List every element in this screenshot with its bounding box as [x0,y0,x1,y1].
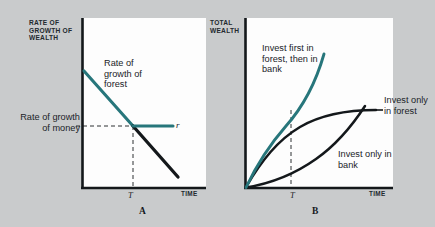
panel-b-only-forest-label: Invest only in forest [384,95,430,116]
panel-b-tick-T: T [290,190,295,200]
panel-b-forest-then-bank-label: Invest first in forest, then in bank [262,43,332,75]
panel-b-x-axis-caption: TIME [369,190,385,197]
panel-a-money-label: Rate of growth of money [12,112,80,133]
panel-b-only-bank-label: Invest only in bank [338,149,394,170]
panel-a-r-label: r [176,120,180,130]
panel-b-y-axis-caption: TOTAL WEALTH [210,19,244,34]
panel-a-letter: A [139,206,146,216]
panel-a-forest-label: Rate of growth of forest [104,58,162,90]
panel-a-plot-area [82,18,206,188]
panel-a-tick-T: T [128,190,133,200]
panel-a-x-axis-caption: TIME [181,190,197,197]
panel-b-letter: B [312,206,318,216]
panel-a-y-axis-caption: RATE OF GROWTH OF WEALTH [29,19,79,42]
figure-container: RATE OF GROWTH OF WEALTH Rate of growth … [0,0,435,227]
